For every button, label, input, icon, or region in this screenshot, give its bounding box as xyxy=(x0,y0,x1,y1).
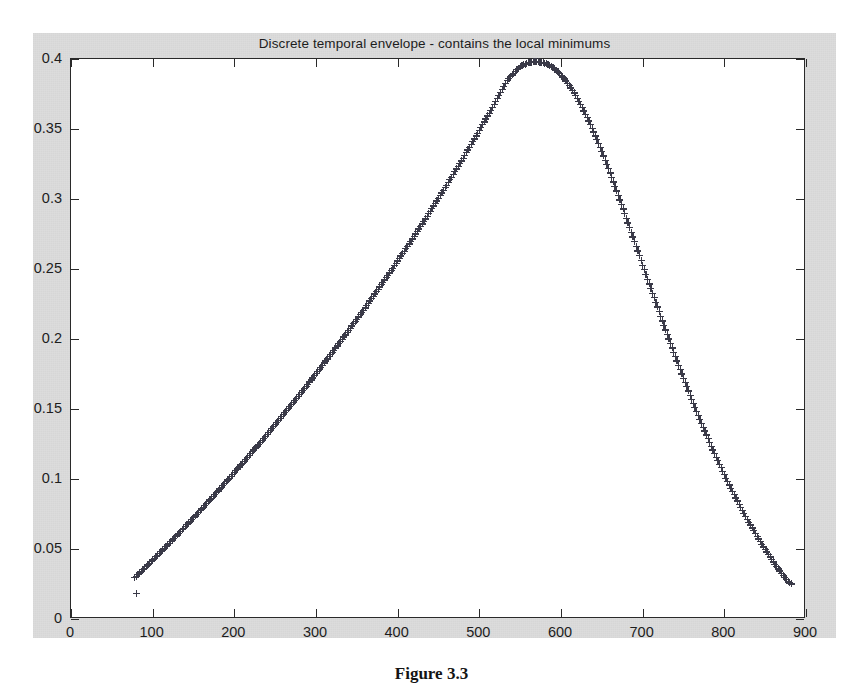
y-axis-tick-right xyxy=(796,199,804,200)
y-axis-tick xyxy=(71,199,79,200)
x-axis-tick-top xyxy=(234,59,235,67)
x-axis-tick xyxy=(71,609,72,617)
x-axis-tick-top xyxy=(479,59,480,67)
x-axis-tick xyxy=(806,609,807,617)
x-axis-tick xyxy=(724,609,725,617)
x-axis-tick xyxy=(153,609,154,617)
y-axis-tick xyxy=(71,549,79,550)
y-axis-tick xyxy=(71,409,79,410)
x-axis-tick-top xyxy=(806,59,807,67)
plot-axes-box xyxy=(70,58,805,618)
data-point-outlier xyxy=(133,590,140,597)
x-axis-tick-top xyxy=(724,59,725,67)
y-axis-tick xyxy=(71,59,79,60)
x-axis-tick-top xyxy=(316,59,317,67)
y-axis-tick-right xyxy=(796,619,804,620)
x-axis-tick-top xyxy=(153,59,154,67)
plot-title: Discrete temporal envelope - contains th… xyxy=(33,36,836,51)
x-axis-tick xyxy=(561,609,562,617)
x-axis-tick xyxy=(398,609,399,617)
y-axis-tick-right xyxy=(796,549,804,550)
x-axis-tick-top xyxy=(398,59,399,67)
figure-caption: Figure 3.3 xyxy=(0,664,863,684)
y-axis-tick-right xyxy=(796,409,804,410)
y-axis-tick xyxy=(71,479,79,480)
x-axis-tick-top xyxy=(71,59,72,67)
y-axis-tick xyxy=(71,339,79,340)
y-axis-tick-right xyxy=(796,339,804,340)
y-axis-tick-right xyxy=(796,269,804,270)
matlab-figure-panel: Discrete temporal envelope - contains th… xyxy=(33,33,836,638)
y-axis-tick-right xyxy=(796,129,804,130)
y-axis-tick xyxy=(71,269,79,270)
x-axis-tick-top xyxy=(561,59,562,67)
y-axis-tick-right xyxy=(796,59,804,60)
x-axis-tick xyxy=(479,609,480,617)
data-point xyxy=(788,580,795,587)
x-axis-tick xyxy=(234,609,235,617)
y-axis-tick xyxy=(71,129,79,130)
y-axis-tick xyxy=(71,619,79,620)
y-axis-tick-right xyxy=(796,479,804,480)
x-axis-tick xyxy=(643,609,644,617)
x-axis-tick-top xyxy=(643,59,644,67)
x-axis-tick xyxy=(316,609,317,617)
